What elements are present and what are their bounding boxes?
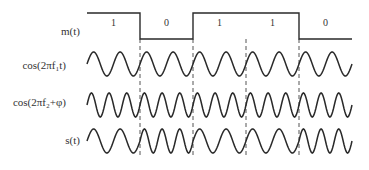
carrier-f2-waveform <box>87 93 352 117</box>
message-signal-waveform <box>87 13 352 39</box>
carrier-f1-waveform <box>87 52 352 76</box>
fsk-waveform-diagram <box>0 0 369 170</box>
fsk-output-waveform <box>87 129 352 153</box>
